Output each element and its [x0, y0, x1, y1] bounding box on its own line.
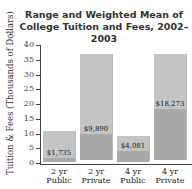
x-axis	[40, 164, 192, 165]
y-tick	[36, 134, 40, 135]
x-category-label-line: 2 yr	[78, 167, 114, 176]
y-tick	[36, 119, 40, 120]
y-tick-label: 0	[14, 159, 34, 167]
y-tick	[36, 75, 40, 76]
y-tick	[36, 45, 40, 46]
x-category-label-line: 2 yr	[41, 167, 77, 176]
mean-value-label: $1,735	[43, 149, 75, 157]
x-category-label-line: 4 yr	[115, 167, 151, 176]
y-tick-label: 35	[14, 56, 34, 64]
mean-value-label: $18,273	[154, 100, 186, 108]
y-tick-label: 5	[14, 144, 34, 152]
below-mean-segment	[154, 109, 186, 160]
x-category-label: 2 yrPrivate	[78, 167, 114, 185]
y-tick-label: 15	[14, 115, 34, 123]
y-axis	[40, 45, 41, 165]
below-mean-segment	[117, 151, 149, 162]
y-tick-label: 10	[14, 130, 34, 138]
x-category-label: 2 yrPublic	[41, 167, 77, 185]
y-tick	[36, 104, 40, 105]
y-tick-label: 40	[14, 41, 34, 49]
x-category-label: 4 yrPublic	[115, 167, 151, 185]
x-category-label-line: Private	[152, 176, 188, 185]
y-tick	[36, 163, 40, 164]
mean-value-label: $9,890	[80, 125, 112, 133]
y-tick	[36, 148, 40, 149]
y-tick	[36, 60, 40, 61]
chart-title-line-2: College Tuition and Fees, 2002–2003	[8, 21, 192, 45]
chart-title-line-1: Range and Weighted Mean of	[8, 9, 192, 21]
y-tick-label: 20	[14, 100, 34, 108]
mean-value-label: $4,081	[117, 142, 149, 150]
x-category-label-line: 4 yr	[152, 167, 188, 176]
y-tick	[36, 89, 40, 90]
x-category-label: 4 yrPrivate	[152, 167, 188, 185]
x-category-label-line: Private	[78, 176, 114, 185]
y-tick-label: 25	[14, 85, 34, 93]
x-category-label-line: Public	[41, 176, 77, 185]
y-tick-label: 30	[14, 71, 34, 79]
below-mean-segment	[80, 134, 112, 160]
below-mean-segment	[43, 158, 75, 162]
x-category-label-line: Public	[115, 176, 151, 185]
